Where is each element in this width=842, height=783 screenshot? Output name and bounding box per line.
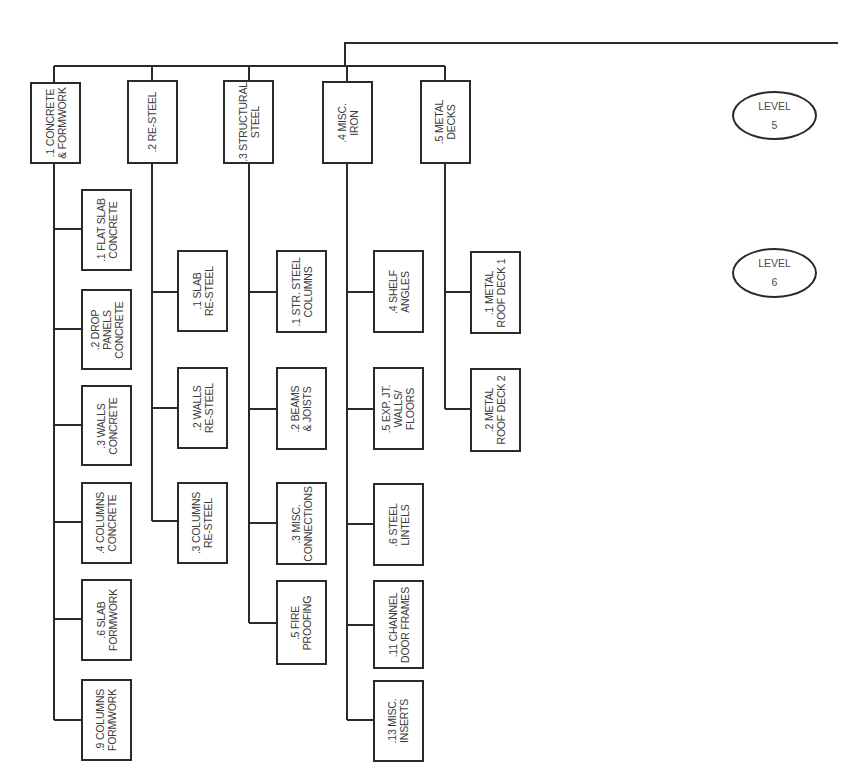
branch-label: .4 MISC. IRON: [336, 103, 360, 142]
branch-re-steel[interactable]: .2 RE-STEEL: [127, 80, 178, 164]
level-6-badge: LEVEL 6: [732, 248, 817, 298]
item-label: .2 METAL ROOF DECK 2: [484, 376, 508, 445]
item-label: .1 FLAT SLAB CONCRETE: [95, 198, 119, 262]
item-label: .9 COLUMNS FORMWORK: [95, 689, 119, 751]
branch-misc-iron[interactable]: .4 MISC. IRON: [322, 81, 373, 164]
item-beams-joists[interactable]: .2 BEAMS & JOISTS: [276, 367, 327, 450]
item-drop-panels-concrete[interactable]: .2 DROP PANELS CONCRETE: [81, 289, 132, 370]
item-label: .6 SLAB FORMWORK: [95, 589, 119, 651]
item-label: .2 BEAMS & JOISTS: [290, 385, 314, 432]
item-columns-re-steel[interactable]: .3 COLUMNS RE-STEEL: [177, 482, 228, 564]
item-slab-re-steel[interactable]: .1 SLAB RE-STEEL: [177, 250, 228, 332]
branch-label: .5 METAL DECKS: [434, 100, 458, 144]
item-label: .4 COLUMNS CONCRETE: [95, 492, 119, 554]
item-misc-connections[interactable]: .3 MISC. CONNECTIONS: [276, 482, 327, 565]
item-walls-concrete[interactable]: .3 WALLS CONCRETE: [81, 385, 132, 466]
item-metal-roof-deck-2[interactable]: .2 METAL ROOF DECK 2: [470, 368, 521, 452]
item-label: .3 COLUMNS RE-STEEL: [191, 492, 215, 554]
item-label: .11 CHANNEL DOOR FRAMES: [387, 587, 411, 663]
item-slab-formwork[interactable]: .6 SLAB FORMWORK: [81, 579, 132, 661]
item-steel-lintels[interactable]: .6 STEEL LINTELS: [373, 483, 424, 566]
item-label: .1 SLAB RE-STEEL: [191, 266, 215, 316]
item-label: .5 EXP. JT. WALLS/ FLOORS: [381, 384, 417, 432]
branch-label: .3 STRUCTURAL STEEL: [237, 82, 261, 162]
item-walls-re-steel[interactable]: .2 WALLS RE-STEEL: [177, 367, 228, 449]
level-label: LEVEL: [758, 97, 791, 116]
item-flat-slab-concrete[interactable]: .1 FLAT SLAB CONCRETE: [81, 189, 132, 271]
item-label: .3 MISC. CONNECTIONS: [290, 486, 314, 561]
item-label: .1 STR. STEEL COLUMNS: [290, 257, 314, 326]
level-number: 6: [772, 273, 778, 292]
item-label: .13 MISC. INSERTS: [386, 699, 410, 744]
item-columns-concrete[interactable]: .4 COLUMNS CONCRETE: [81, 482, 132, 564]
item-label: .5 FIRE PROOFING: [290, 595, 314, 649]
level-number: 5: [772, 116, 778, 135]
branch-metal-decks[interactable]: .5 METAL DECKS: [420, 80, 471, 164]
item-label: .1 METAL ROOF DECK 1: [484, 258, 508, 327]
item-label: .2 DROP PANELS CONCRETE: [89, 301, 125, 358]
item-shelf-angles[interactable]: .4 SHELF ANGLES: [373, 250, 424, 333]
branch-label: .2 RE-STEEL: [147, 92, 159, 153]
parent-connector: [345, 43, 838, 66]
branch-label: .1 CONCRETE & FORMWORK: [44, 87, 68, 159]
level-5-badge: LEVEL 5: [732, 91, 817, 140]
item-label: .6 STEEL LINTELS: [387, 503, 411, 546]
item-label: .4 SHELF ANGLES: [386, 270, 410, 314]
item-fire-proofing[interactable]: .5 FIRE PROOFING: [276, 580, 327, 665]
branch-structural-steel[interactable]: .3 STRUCTURAL STEEL: [223, 80, 274, 164]
level-label: LEVEL: [758, 254, 791, 273]
item-str-steel-columns[interactable]: .1 STR. STEEL COLUMNS: [276, 250, 327, 333]
item-label: .3 WALLS CONCRETE: [95, 397, 119, 454]
item-channel-door-frames[interactable]: .11 CHANNEL DOOR FRAMES: [373, 580, 424, 669]
branch-concrete-formwork[interactable]: .1 CONCRETE & FORMWORK: [30, 82, 81, 164]
item-misc-inserts[interactable]: .13 MISC. INSERTS: [373, 680, 424, 762]
item-exp-jt-walls-floors[interactable]: .5 EXP. JT. WALLS/ FLOORS: [373, 367, 424, 450]
item-metal-roof-deck-1[interactable]: .1 METAL ROOF DECK 1: [470, 251, 521, 334]
item-columns-formwork[interactable]: .9 COLUMNS FORMWORK: [81, 679, 132, 761]
item-label: .2 WALLS RE-STEEL: [191, 383, 215, 433]
